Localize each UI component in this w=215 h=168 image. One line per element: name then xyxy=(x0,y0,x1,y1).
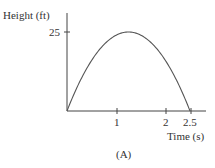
x-axis-label: Time (s) xyxy=(167,130,204,142)
y-tick-label-25: 25 xyxy=(49,26,60,38)
figure-caption: (A) xyxy=(116,148,131,160)
x-tick-label-2: 2 xyxy=(163,116,169,128)
height-curve xyxy=(67,32,190,111)
x-tick-label-2-5: 2.5 xyxy=(183,116,197,128)
y-axis-label: Height (ft) xyxy=(3,9,50,21)
chart-canvas xyxy=(0,0,215,168)
x-tick-label-1: 1 xyxy=(114,116,120,128)
